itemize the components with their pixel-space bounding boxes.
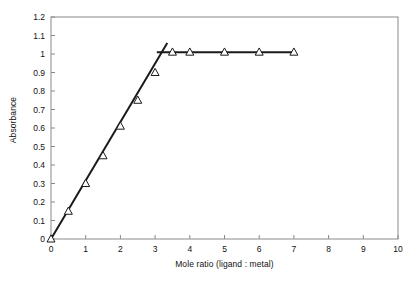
y-tick-label: 0.3: [33, 179, 45, 189]
y-tick-label: 0.6: [33, 123, 45, 133]
y-tick-label: 1.2: [33, 12, 45, 22]
y-tick-label: 0: [40, 234, 45, 244]
y-tick-label: 1.1: [33, 31, 45, 41]
x-tick-label: 0: [49, 244, 54, 254]
y-tick-label: 0.8: [33, 86, 45, 96]
y-tick-label: 0.9: [33, 68, 45, 78]
x-tick-label: 8: [326, 244, 331, 254]
x-axis-label: Mole ratio (ligand : metal): [51, 259, 398, 269]
x-tick-label: 10: [393, 244, 403, 254]
x-tick-label: 9: [361, 244, 366, 254]
x-tick-label: 1: [83, 244, 88, 254]
y-tick-label: 0.2: [33, 197, 45, 207]
plot-area: 00.10.20.30.40.50.60.70.80.911.11.201234…: [0, 0, 416, 286]
x-tick-label: 7: [292, 244, 297, 254]
y-tick-label: 0.7: [33, 105, 45, 115]
x-tick-label: 4: [187, 244, 192, 254]
x-tick-label: 6: [257, 244, 262, 254]
x-tick-label: 3: [153, 244, 158, 254]
chart-figure: Absorbance 00.10.20.30.40.50.60.70.80.91…: [0, 0, 416, 286]
x-tick-label: 2: [118, 244, 123, 254]
data-point-marker: [82, 179, 90, 186]
x-tick-label: 5: [222, 244, 227, 254]
data-point-marker: [64, 207, 72, 214]
y-tick-label: 1: [40, 49, 45, 59]
y-tick-label: 0.5: [33, 142, 45, 152]
y-tick-label: 0.1: [33, 216, 45, 226]
y-tick-label: 0.4: [33, 160, 45, 170]
